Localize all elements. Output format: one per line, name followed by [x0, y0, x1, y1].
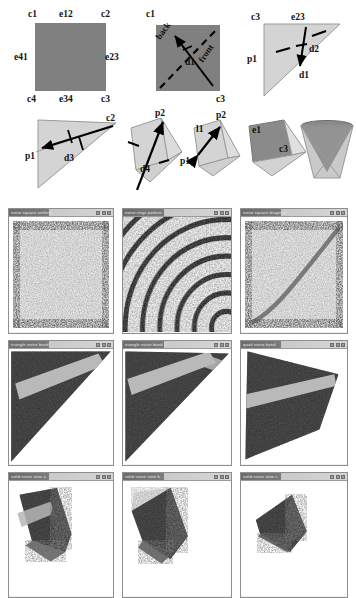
label-d2: d2	[309, 44, 319, 54]
window-title: triangle noise band 2	[125, 342, 166, 348]
panel-cone-wireframe	[301, 121, 353, 179]
label-c1-2: c1	[146, 9, 155, 19]
triangle-face-d3	[38, 120, 116, 188]
label-l1: l1	[196, 124, 204, 134]
label-e41: e41	[14, 52, 28, 62]
window-r3c3[interactable]: solid noise view c	[240, 472, 348, 598]
window-title: noise rings pattern	[125, 210, 162, 216]
canvas-solid-noise-c[interactable]	[241, 481, 347, 596]
titlebar[interactable]: noise square uniform	[9, 209, 113, 217]
maximize-icon[interactable]	[336, 211, 340, 216]
window-controls[interactable]	[214, 475, 229, 480]
window-controls[interactable]	[330, 211, 345, 216]
maximize-icon[interactable]	[220, 475, 224, 480]
titlebar[interactable]: noise square diagonal	[241, 209, 347, 217]
titlebar[interactable]: triangle noise band	[9, 341, 113, 349]
diagram-area: c1 e12 c2 e41 e23 c4 e34 c3 c1 c3 b	[0, 0, 356, 190]
minimize-icon[interactable]	[214, 343, 218, 348]
close-icon[interactable]	[341, 475, 345, 480]
canvas-triangle-noise-2[interactable]	[123, 349, 231, 464]
panel-polyhedron-e1-c3: e1 c3	[249, 120, 306, 176]
close-icon[interactable]	[107, 475, 111, 480]
minimize-icon[interactable]	[214, 211, 218, 216]
window-r1c2[interactable]: noise rings pattern	[122, 208, 232, 334]
label-e12: e12	[59, 9, 73, 19]
maximize-icon[interactable]	[102, 211, 106, 216]
maximize-icon[interactable]	[102, 343, 106, 348]
close-icon[interactable]	[341, 343, 345, 348]
window-controls[interactable]	[330, 475, 345, 480]
close-icon[interactable]	[225, 211, 229, 216]
window-r1c1[interactable]: noise square uniform	[8, 208, 114, 334]
window-r3c2[interactable]: solid noise view b	[122, 472, 232, 598]
maximize-icon[interactable]	[220, 211, 224, 216]
label-c4: c4	[27, 94, 36, 104]
titlebar[interactable]: solid noise view b	[123, 473, 231, 481]
window-controls[interactable]	[330, 343, 345, 348]
minimize-icon[interactable]	[96, 343, 100, 348]
canvas-solid-noise-a[interactable]	[9, 481, 113, 596]
label-e23: e23	[105, 52, 119, 62]
window-r2c2[interactable]: triangle noise band 2	[122, 340, 232, 466]
window-controls[interactable]	[214, 343, 229, 348]
label-d3: d3	[64, 153, 74, 163]
label-e34: e34	[59, 94, 73, 104]
titlebar[interactable]: solid noise view a	[9, 473, 113, 481]
window-r2c1[interactable]: triangle noise band	[8, 340, 114, 466]
window-controls[interactable]	[96, 343, 111, 348]
canvas-triangle-noise[interactable]	[9, 349, 113, 464]
panel-square-direction: c1 c3 back d1 front	[146, 9, 225, 104]
close-icon[interactable]	[225, 475, 229, 480]
window-r3c1[interactable]: solid noise view a	[8, 472, 114, 598]
window-r2c3[interactable]: quad noise band	[240, 340, 348, 466]
window-title: quad noise band	[243, 342, 276, 348]
panel-triangle-d1-d2: c3 e23 p1 d2 d1	[247, 12, 340, 96]
window-controls[interactable]	[214, 211, 229, 216]
window-title: noise square diagonal	[243, 210, 286, 216]
minimize-icon[interactable]	[330, 211, 334, 216]
minimize-icon[interactable]	[214, 475, 218, 480]
triangle-face	[264, 24, 340, 96]
panel-polyhedron-l1: p2 l1 p1	[180, 110, 240, 176]
label-c3-7: c3	[279, 144, 288, 154]
minimize-icon[interactable]	[330, 343, 334, 348]
canvas-solid-noise-b[interactable]	[123, 481, 231, 596]
maximize-icon[interactable]	[220, 343, 224, 348]
panel-square-corners: c1 e12 c2 e41 e23 c4 e34 c3	[14, 9, 119, 104]
window-r1c3[interactable]: noise square diagonal	[240, 208, 348, 334]
maximize-icon[interactable]	[336, 343, 340, 348]
label-c2-4: c2	[106, 113, 115, 123]
label-e23: e23	[291, 12, 305, 22]
window-controls[interactable]	[96, 475, 111, 480]
maximize-icon[interactable]	[336, 475, 340, 480]
label-d4: d4	[140, 164, 150, 174]
titlebar[interactable]: triangle noise band 2	[123, 341, 231, 349]
window-title: solid noise view b	[125, 474, 160, 480]
label-p1-4: p1	[25, 151, 35, 161]
label-p2-5: p2	[155, 108, 165, 118]
close-icon[interactable]	[107, 343, 111, 348]
maximize-icon[interactable]	[102, 475, 106, 480]
window-title: solid noise view a	[11, 474, 46, 480]
window-title: solid noise view c	[243, 474, 278, 480]
label-c3-3: c3	[251, 12, 260, 22]
label-d1-2: d1	[185, 57, 195, 67]
window-controls[interactable]	[96, 211, 111, 216]
close-icon[interactable]	[341, 211, 345, 216]
canvas-diagonal-noise[interactable]	[241, 217, 347, 332]
canvas-quad-noise[interactable]	[241, 349, 347, 464]
titlebar[interactable]: noise rings pattern	[123, 209, 231, 217]
label-c1: c1	[28, 9, 37, 19]
canvas-square-noise[interactable]	[9, 217, 113, 332]
titlebar[interactable]: solid noise view c	[241, 473, 347, 481]
close-icon[interactable]	[107, 211, 111, 216]
titlebar[interactable]: quad noise band	[241, 341, 347, 349]
close-icon[interactable]	[225, 343, 229, 348]
minimize-icon[interactable]	[96, 475, 100, 480]
window-grid: noise square uniform	[0, 190, 356, 579]
minimize-icon[interactable]	[330, 475, 334, 480]
minimize-icon[interactable]	[96, 211, 100, 216]
canvas-ring-noise[interactable]	[123, 217, 231, 332]
label-p1-3: p1	[247, 54, 257, 64]
